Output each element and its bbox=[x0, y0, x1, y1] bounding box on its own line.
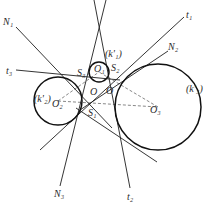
label-o-prime: O bbox=[106, 85, 113, 96]
label-k2: (k'₂) bbox=[34, 93, 51, 105]
label-o1: O₁ bbox=[94, 63, 105, 74]
label-s1: S₁ bbox=[88, 107, 96, 118]
label-t1: t₁ bbox=[186, 9, 192, 20]
label-t2: t₂ bbox=[127, 191, 134, 202]
label-n2: N₂ bbox=[167, 41, 179, 52]
label-t3: t₃ bbox=[6, 65, 13, 76]
label-n3: N₃ bbox=[53, 188, 65, 199]
label-s2: S₂ bbox=[111, 62, 120, 73]
label-o2: O₂ bbox=[52, 98, 63, 109]
label-k3: (k'₃) bbox=[186, 83, 203, 95]
labels: N₁ t₃ t₁ N₂ N₃ t₂ S₃ S₂ S₁ O₁ O₂ O₃ O O … bbox=[2, 9, 203, 202]
label-o3: O₃ bbox=[150, 104, 161, 115]
line-t1 bbox=[40, 17, 184, 150]
dashed-o2-o3 bbox=[58, 101, 158, 107]
geometry-diagram: N₁ t₃ t₁ N₂ N₃ t₂ S₃ S₂ S₁ O₁ O₂ O₃ O O … bbox=[0, 0, 212, 213]
label-s3: S₃ bbox=[77, 67, 86, 78]
label-o: O bbox=[90, 86, 97, 97]
label-n1: N₁ bbox=[2, 16, 13, 27]
label-k1: (k'₁) bbox=[105, 48, 122, 60]
